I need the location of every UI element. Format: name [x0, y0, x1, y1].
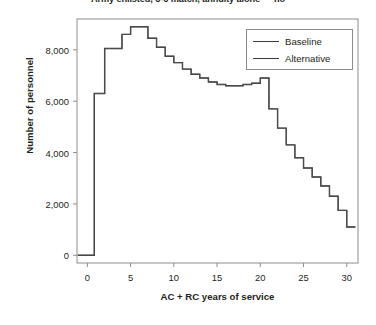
y-tick-label: 4,000 [25, 147, 69, 158]
chart-legend: Baseline Alternative [246, 29, 353, 70]
x-tick-label: 10 [159, 272, 189, 283]
y-tick-label: 0 [25, 250, 69, 261]
x-tick-label: 25 [289, 272, 319, 283]
legend-item-baseline: Baseline [253, 33, 322, 49]
y-tick-label: 6,000 [25, 96, 69, 107]
legend-line-icon [253, 41, 279, 42]
chart-title: Army enlisted, 3-6 match, annuity alone … [0, 0, 376, 4]
y-tick-label: 8,000 [25, 44, 69, 55]
x-axis-label: AC + RC years of service [77, 291, 358, 302]
x-tick-label: 30 [332, 272, 362, 283]
y-tick-label: 2,000 [25, 198, 69, 209]
x-tick-label: 20 [245, 272, 275, 283]
x-tick-label: 5 [116, 272, 146, 283]
x-tick-label: 15 [202, 272, 232, 283]
legend-label: Baseline [285, 36, 322, 47]
legend-item-alternative: Alternative [253, 50, 330, 66]
chart-figure: Army enlisted, 3-6 match, annuity alone … [0, 0, 376, 325]
x-tick-label: 0 [72, 272, 102, 283]
legend-label: Alternative [285, 53, 330, 64]
legend-line-icon [253, 58, 279, 59]
